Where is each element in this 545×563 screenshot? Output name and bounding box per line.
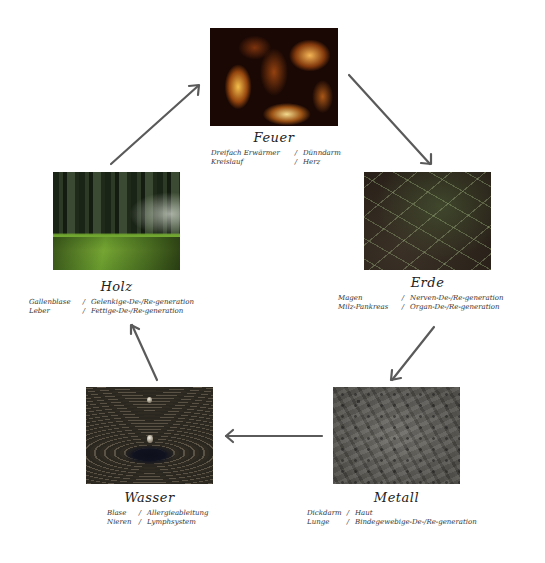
- element-title: Wasser: [86, 490, 213, 505]
- element-rows: Magen / Nerven-De-/Re-generation Milz-Pa…: [338, 294, 503, 312]
- row: Dreifach Erwärmer / Dünndarm: [211, 149, 341, 158]
- organ-label: Magen: [338, 294, 396, 303]
- function-label: Organ-De-/Re-generation: [410, 303, 499, 312]
- row: Milz-Pankreas / Organ-De-/Re-generation: [338, 303, 503, 312]
- separator: /: [133, 518, 147, 527]
- separator: /: [341, 509, 355, 518]
- element-rows: Dreifach Erwärmer / Dünndarm Kreislauf /…: [211, 149, 341, 167]
- element-rows: Gallenblase / Gelenkige-De-/Re-generatio…: [29, 298, 194, 316]
- separator: /: [77, 307, 91, 316]
- function-label: Bindegewebige-De-/Re-generation: [355, 518, 477, 527]
- five-elements-diagram: Feuer Dreifach Erwärmer / Dünndarm Kreis…: [0, 0, 545, 563]
- row: Lunge / Bindegewebige-De-/Re-generation: [307, 518, 477, 527]
- separator: /: [341, 518, 355, 527]
- water-drop-photo: [86, 387, 213, 484]
- organ-label: Blase: [107, 509, 133, 518]
- row: Magen / Nerven-De-/Re-generation: [338, 294, 503, 303]
- organ-label: Lunge: [307, 518, 341, 527]
- separator: /: [289, 158, 303, 167]
- organ-label: Leber: [29, 307, 77, 316]
- row: Gallenblase / Gelenkige-De-/Re-generatio…: [29, 298, 194, 307]
- element-title: Erde: [364, 275, 491, 290]
- water-droplet-icon: [147, 397, 152, 403]
- metal-texture-photo: [333, 387, 460, 484]
- row: Blase / Allergieableitung: [107, 509, 208, 518]
- arrow-holz-to-feuer-icon: [111, 85, 199, 164]
- arrow-feuer-to-erde-icon: [349, 75, 431, 164]
- arrow-metall-to-wasser-icon: [226, 430, 322, 442]
- function-label: Lymphsystem: [147, 518, 196, 527]
- element-rows: Blase / Allergieableitung Nieren / Lymph…: [107, 509, 208, 527]
- fire-photo: [210, 28, 338, 126]
- separator: /: [289, 149, 303, 158]
- organ-label: Dickdarm: [307, 509, 341, 518]
- row: Nieren / Lymphsystem: [107, 518, 208, 527]
- organ-label: Milz-Pankreas: [338, 303, 396, 312]
- separator: /: [77, 298, 91, 307]
- water-droplet-icon: [147, 435, 153, 443]
- function-label: Nerven-De-/Re-generation: [410, 294, 503, 303]
- function-label: Fettige-De-/Re-generation: [91, 307, 183, 316]
- element-title: Metall: [333, 490, 460, 505]
- separator: /: [396, 294, 410, 303]
- function-label: Gelenkige-De-/Re-generation: [91, 298, 194, 307]
- forest-photo: [53, 172, 180, 270]
- organ-label: Nieren: [107, 518, 133, 527]
- element-title: Feuer: [210, 130, 338, 145]
- function-label: Herz: [303, 158, 320, 167]
- row: Kreislauf / Herz: [211, 158, 341, 167]
- separator: /: [396, 303, 410, 312]
- organ-label: Gallenblase: [29, 298, 77, 307]
- arrow-wasser-to-holz-icon: [131, 325, 157, 380]
- row: Dickdarm / Haut: [307, 509, 477, 518]
- function-label: Haut: [355, 509, 373, 518]
- organ-label: Dreifach Erwärmer: [211, 149, 289, 158]
- earth-grass-photo: [364, 172, 491, 270]
- function-label: Dünndarm: [303, 149, 341, 158]
- arrow-erde-to-metall-icon: [391, 327, 434, 380]
- separator: /: [133, 509, 147, 518]
- element-rows: Dickdarm / Haut Lunge / Bindegewebige-De…: [307, 509, 477, 527]
- element-title: Holz: [53, 279, 180, 294]
- row: Leber / Fettige-De-/Re-generation: [29, 307, 194, 316]
- function-label: Allergieableitung: [147, 509, 208, 518]
- organ-label: Kreislauf: [211, 158, 289, 167]
